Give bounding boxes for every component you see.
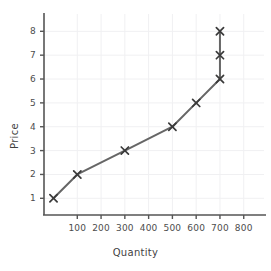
series-markers-supply (50, 28, 224, 202)
x-tick-label: 300 (116, 223, 134, 233)
axis-tick-marks (40, 31, 244, 219)
gridlines (44, 14, 264, 215)
x-tick-label: 800 (235, 223, 253, 233)
x-tick-label: 100 (68, 223, 86, 233)
y-tick-label: 1 (10, 193, 36, 203)
y-tick-label: 6 (10, 74, 36, 84)
plot-area (0, 0, 271, 271)
y-tick-label: 5 (10, 98, 36, 108)
y-axis-title: Price (9, 123, 20, 149)
y-tick-label: 8 (10, 26, 36, 36)
y-tick-label: 7 (10, 50, 36, 60)
x-tick-label: 600 (187, 223, 205, 233)
x-tick-label: 700 (211, 223, 229, 233)
chart-figure: 12345678 100200300400500600700800 Price … (0, 0, 271, 271)
x-tick-label: 200 (92, 223, 110, 233)
x-tick-label: 400 (140, 223, 158, 233)
x-tick-label: 500 (164, 223, 182, 233)
y-tick-label: 2 (10, 169, 36, 179)
axis-spines (43, 13, 266, 215)
x-axis-title: Quantity (0, 247, 271, 258)
